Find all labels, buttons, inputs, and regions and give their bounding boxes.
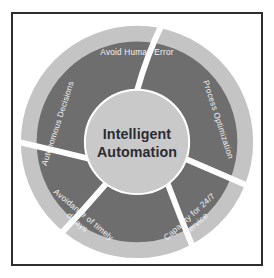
center-title-line1: Intelligent <box>103 126 172 142</box>
segment-label-avoid-human-error: Avoid Human Error <box>100 48 173 57</box>
diagram-frame: Avoid Human Error Process Optimization C… <box>11 12 263 266</box>
clipped-header-text: · · · <box>0 0 274 3</box>
screenshot-stage: · · · <box>0 0 274 278</box>
intelligent-automation-diagram: Avoid Human Error Process Optimization C… <box>13 14 261 264</box>
center-title-line2: Automation <box>97 144 177 160</box>
ring-diagram-svg: Avoid Human Error Process Optimization C… <box>13 14 261 264</box>
